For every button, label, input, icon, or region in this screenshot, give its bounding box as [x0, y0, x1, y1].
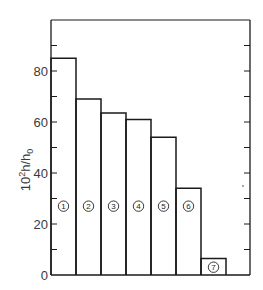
bars: 1234567: [51, 58, 226, 275]
bar-2: [76, 99, 101, 275]
stray-dot: [242, 185, 244, 187]
bar-number-label: 7: [211, 263, 216, 272]
bar-number-label: 3: [111, 202, 116, 211]
tick-labels: 020406080: [34, 64, 48, 283]
y-tick-label: 0: [41, 268, 48, 283]
y-tick-label: 80: [34, 64, 48, 79]
bar-number-label: 6: [186, 202, 191, 211]
bar-number-label: 5: [161, 202, 166, 211]
bar-1: [51, 58, 76, 275]
bar-number-label: 4: [136, 202, 141, 211]
bar-number-label: 1: [61, 202, 66, 211]
y-axis-label: 102h/h0: [17, 149, 35, 192]
bar-3: [101, 113, 126, 275]
y-tick-label: 60: [34, 115, 48, 130]
y-tick-label: 20: [34, 217, 48, 232]
bar-number-label: 2: [86, 202, 91, 211]
y-tick-label: 40: [34, 166, 48, 181]
bar-4: [126, 119, 151, 275]
bar-chart: 1234567 020406080 102h/h0: [0, 0, 263, 290]
